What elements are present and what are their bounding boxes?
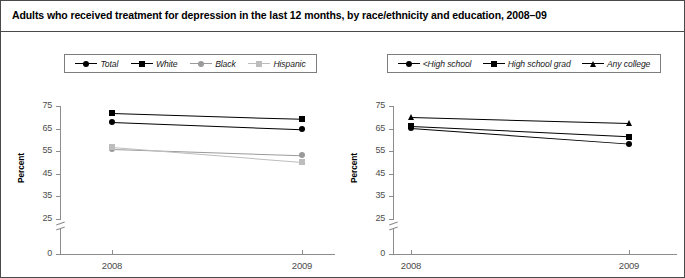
y-tick-mark — [389, 106, 393, 107]
figure-container: Adults who received treatment for depres… — [0, 0, 685, 278]
x-tick-mark — [112, 250, 113, 254]
x-tick-mark — [411, 250, 412, 254]
y-axis-line-lower — [60, 229, 61, 254]
y-axis-title: Percent — [16, 152, 26, 182]
y-tick-label: 0 — [361, 248, 385, 258]
y-tick-label: 35 — [28, 190, 52, 200]
chart-panel-race-ethnicity: TotalWhiteBlackHispanic 0253545556575Per… — [5, 37, 343, 277]
x-tick-label: 2008 — [92, 260, 132, 271]
series-line-2 — [112, 113, 302, 120]
y-tick-mark — [389, 219, 393, 220]
chart-panel-education: <High schoolHigh school gradAny college … — [347, 37, 683, 277]
y-tick-mark — [389, 151, 393, 152]
data-point-1-1[interactable] — [109, 119, 115, 125]
y-tick-label: 25 — [361, 213, 385, 223]
data-point-2-1[interactable] — [408, 123, 414, 129]
y-tick-mark — [56, 174, 60, 175]
y-axis-line — [393, 106, 394, 220]
y-axis-title: Percent — [349, 152, 359, 182]
series-line-3 — [411, 117, 629, 124]
x-tick-label: 2009 — [609, 260, 649, 271]
y-tick-mark — [56, 196, 60, 197]
data-point-2-1[interactable] — [109, 110, 115, 116]
y-tick-mark — [389, 196, 393, 197]
x-tick-label: 2008 — [391, 260, 431, 271]
figure-title: Adults who received treatment for depres… — [12, 9, 672, 22]
data-point-4-1[interactable] — [109, 144, 115, 150]
plot-area-education: 0253545556575Percent20082009 — [347, 37, 683, 277]
y-tick-mark — [389, 129, 393, 130]
axis-break-mark — [56, 221, 65, 225]
y-tick-label: 55 — [361, 145, 385, 155]
y-tick-label: 25 — [28, 213, 52, 223]
plot-area-race-ethnicity: 0253545556575Percent20082009 — [5, 37, 343, 277]
data-point-3-2[interactable] — [299, 152, 305, 158]
data-point-2-2[interactable] — [299, 116, 305, 122]
x-tick-mark — [629, 250, 630, 254]
y-tick-label: 35 — [361, 190, 385, 200]
y-tick-label: 65 — [28, 123, 52, 133]
x-axis-line — [60, 254, 335, 255]
x-tick-label: 2009 — [282, 260, 322, 271]
y-tick-mark — [389, 254, 393, 255]
series-line-1 — [112, 122, 302, 131]
y-tick-mark — [56, 151, 60, 152]
y-tick-label: 75 — [28, 100, 52, 110]
y-tick-label: 55 — [28, 145, 52, 155]
data-point-3-1[interactable] — [408, 114, 414, 120]
x-tick-mark — [302, 250, 303, 254]
y-tick-mark — [389, 174, 393, 175]
y-tick-label: 75 — [361, 100, 385, 110]
data-point-2-2[interactable] — [626, 134, 632, 140]
data-point-1-2[interactable] — [626, 141, 632, 147]
y-tick-label: 45 — [28, 168, 52, 178]
y-tick-mark — [56, 129, 60, 130]
data-point-4-2[interactable] — [299, 159, 305, 165]
title-divider — [1, 31, 684, 32]
y-tick-label: 65 — [361, 123, 385, 133]
axis-break-mark — [389, 221, 398, 225]
y-tick-mark — [56, 219, 60, 220]
y-axis-line — [60, 106, 61, 220]
data-point-3-2[interactable] — [626, 120, 632, 126]
x-axis-line — [393, 254, 677, 255]
y-tick-mark — [56, 254, 60, 255]
y-axis-line-lower — [393, 229, 394, 254]
y-tick-mark — [56, 106, 60, 107]
data-point-1-2[interactable] — [299, 126, 305, 132]
y-tick-label: 0 — [28, 248, 52, 258]
y-tick-label: 45 — [361, 168, 385, 178]
